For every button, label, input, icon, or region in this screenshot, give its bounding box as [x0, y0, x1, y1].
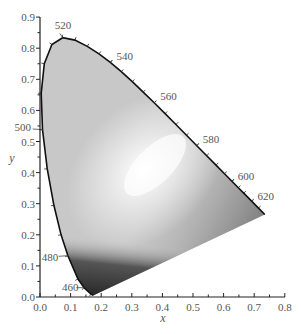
wavelength-label-540: 540	[116, 50, 133, 62]
plot-area	[0, 0, 301, 334]
wavelength-label-500: 500	[14, 121, 31, 133]
wavelength-label-600: 600	[238, 170, 255, 182]
chromaticity-chart: 460480500520540560580600620 0.00.10.20.3…	[0, 0, 301, 334]
y-tick-label: 0.4	[21, 167, 35, 179]
x-axis: 0.00.10.20.30.40.50.60.70.8	[33, 293, 292, 313]
y-tick-label: 0.1	[21, 260, 35, 272]
wavelength-label-580: 580	[203, 133, 220, 145]
y-axis-label: y	[8, 151, 15, 165]
x-tick-label: 0.0	[33, 301, 47, 313]
wavelength-label-620: 620	[257, 190, 274, 202]
x-tick-label: 0.6	[217, 301, 231, 313]
x-tick-label: 0.8	[278, 301, 292, 313]
y-tick-label: 0.9	[21, 11, 35, 23]
y-tick-label: 0.6	[21, 104, 35, 116]
wavelength-label-520: 520	[55, 19, 72, 31]
wavelength-label-480: 480	[42, 251, 59, 263]
x-tick-label: 0.5	[186, 301, 200, 313]
x-tick-label: 0.1	[64, 301, 78, 313]
y-axis: 0.00.10.20.30.40.50.60.70.80.9	[21, 11, 40, 303]
x-axis-label: x	[159, 311, 166, 325]
x-tick-label: 0.2	[94, 301, 108, 313]
y-tick-label: 0.0	[21, 291, 35, 303]
x-tick-label: 0.7	[247, 301, 261, 313]
y-tick-label: 0.5	[21, 136, 35, 148]
y-tick-label: 0.7	[21, 73, 35, 85]
y-tick-label: 0.2	[21, 229, 35, 241]
wavelength-label-460: 460	[62, 281, 79, 293]
y-tick-label: 0.8	[21, 42, 35, 54]
wavelength-label-560: 560	[160, 90, 177, 102]
x-tick-label: 0.3	[125, 301, 139, 313]
y-tick-label: 0.3	[21, 198, 35, 210]
